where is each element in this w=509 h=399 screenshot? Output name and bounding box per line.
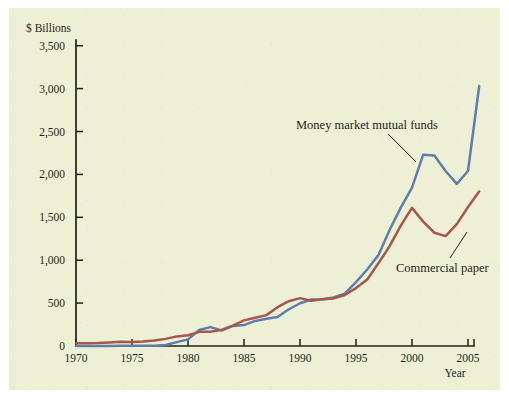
x-axis-tick-labels: 19701975198019851990199520002005 — [65, 352, 480, 364]
x-axis-title: Year — [444, 367, 465, 379]
annotation-leader-commercial-paper — [450, 232, 467, 258]
x-tick-label: 1975 — [121, 352, 144, 364]
y-tick-label: 2,000 — [39, 168, 65, 181]
annotation-leader-money-market-mutual-funds — [388, 134, 416, 162]
x-tick-label: 2005 — [457, 352, 480, 364]
y-tick-label: 1,500 — [39, 211, 65, 224]
y-tick-label: 3,000 — [39, 83, 65, 96]
annotation-group: Money market mutual fundsCommercial pape… — [296, 118, 490, 275]
x-tick-label: 1980 — [177, 352, 200, 364]
x-tick-label: 1985 — [233, 352, 256, 364]
y-axis-ticks — [76, 46, 83, 303]
annotation-label-commercial-paper: Commercial paper — [396, 261, 490, 275]
y-axis-title: $ Billions — [26, 22, 72, 34]
x-tick-label: 1995 — [345, 352, 368, 364]
annotation-label-money-market-mutual-funds: Money market mutual funds — [296, 118, 438, 132]
y-tick-label: 500 — [48, 297, 66, 309]
x-tick-label: 1970 — [65, 352, 88, 364]
figure-root: 05001,0001,5002,0002,5003,0003,500 19701… — [0, 0, 509, 399]
y-tick-label: 1,000 — [39, 254, 65, 267]
y-tick-label: 3,500 — [39, 40, 65, 53]
y-tick-label: 2,500 — [39, 126, 65, 139]
y-axis-tick-labels: 05001,0001,5002,0002,5003,0003,500 — [39, 40, 65, 352]
x-tick-label: 1990 — [289, 352, 312, 364]
line-chart: 05001,0001,5002,0002,5003,0003,500 19701… — [0, 0, 509, 399]
x-tick-label: 2000 — [401, 352, 424, 364]
y-tick-label: 0 — [59, 340, 65, 352]
